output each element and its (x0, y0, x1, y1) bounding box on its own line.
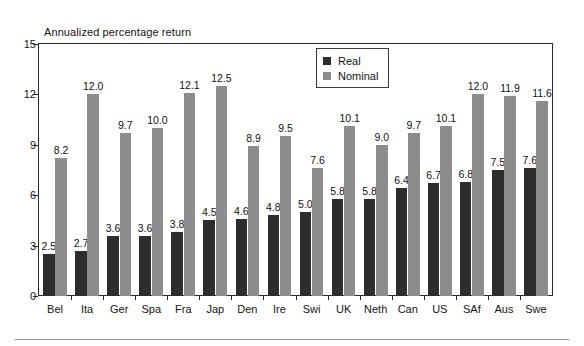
bar-nominal[interactable] (440, 126, 452, 296)
bar-group: 4.68.9 (231, 44, 263, 296)
x-axis-tick-mark (328, 296, 329, 300)
y-axis-tick-mark (33, 145, 38, 146)
bar-value-label: 12.0 (468, 81, 488, 92)
bar-real[interactable] (492, 170, 504, 296)
x-axis-tick-mark (231, 296, 232, 300)
bar-real[interactable] (203, 220, 215, 296)
bar-value-label: 9.0 (374, 132, 389, 143)
bar-value-label: 7.6 (523, 155, 538, 166)
x-axis-category-label: Can (398, 303, 418, 315)
bar-group: 2.712.0 (71, 44, 103, 296)
bar-nominal[interactable] (216, 86, 228, 296)
bar-real[interactable] (524, 168, 536, 296)
bar-value-label: 6.7 (426, 170, 441, 181)
bar-real[interactable] (428, 183, 440, 296)
y-axis-tick-label: 15 (0, 39, 36, 50)
x-axis-tick-mark (199, 296, 200, 300)
y-axis-tick-mark (33, 94, 38, 95)
bar-value-label: 5.0 (298, 199, 313, 210)
bar-nominal[interactable] (184, 93, 196, 296)
bar-nominal[interactable] (87, 94, 99, 296)
bar-value-label: 10.1 (340, 113, 360, 124)
x-axis-category-label: Swi (303, 303, 321, 315)
bar-group: 3.610.0 (135, 44, 167, 296)
bar-nominal[interactable] (280, 136, 292, 296)
x-axis-tick-mark (135, 296, 136, 300)
bar-real[interactable] (300, 212, 312, 296)
bar-value-label: 9.7 (407, 120, 422, 131)
bar-value-label: 4.5 (202, 207, 217, 218)
x-axis-tick-mark (103, 296, 104, 300)
bar-group: 3.812.1 (167, 44, 199, 296)
x-axis-tick-mark (520, 296, 521, 300)
bar-nominal[interactable] (152, 128, 164, 296)
x-axis-tick-mark (360, 296, 361, 300)
bar-value-label: 2.7 (74, 238, 89, 249)
chart-axis-title: Annualized percentage return (44, 26, 191, 39)
bar-nominal[interactable] (504, 96, 516, 296)
legend-swatch-nominal-icon (323, 72, 331, 80)
x-axis-category-label: SAf (463, 303, 481, 315)
bar-real[interactable] (364, 199, 376, 296)
bar-nominal[interactable] (536, 101, 548, 296)
x-axis-tick-mark (488, 296, 489, 300)
bar-value-label: 6.8 (458, 169, 473, 180)
bar-real[interactable] (171, 232, 183, 296)
bar-real[interactable] (332, 199, 344, 296)
bar-real[interactable] (43, 254, 55, 296)
bar-group: 6.710.1 (424, 44, 456, 296)
x-axis-category-label: Den (237, 303, 257, 315)
y-axis-tick-mark (33, 44, 38, 45)
x-axis-category-label: Jap (206, 303, 224, 315)
legend-label-real: Real (338, 55, 361, 67)
bar-nominal[interactable] (312, 168, 324, 296)
bar-nominal[interactable] (376, 145, 388, 296)
y-axis-tick-mark (33, 195, 38, 196)
x-axis-category-label: UK (336, 303, 351, 315)
bar-value-label: 12.0 (83, 81, 103, 92)
bar-real[interactable] (460, 182, 472, 296)
bar-chart: Annualized percentage return 03691215 2.… (0, 0, 584, 346)
x-axis-tick-mark (296, 296, 297, 300)
bar-real[interactable] (268, 215, 280, 296)
y-axis-tick-label: 6 (0, 190, 36, 201)
bar-value-label: 7.5 (490, 157, 505, 168)
bar-value-label: 12.5 (211, 73, 231, 84)
bar-value-label: 9.7 (118, 120, 133, 131)
bar-value-label: 10.1 (436, 113, 456, 124)
x-axis-category-label: Aus (494, 303, 513, 315)
y-axis-tick-label: 12 (0, 89, 36, 100)
bar-value-label: 7.6 (310, 155, 325, 166)
bar-nominal[interactable] (55, 158, 67, 296)
x-axis-tick-mark (456, 296, 457, 300)
bar-real[interactable] (139, 236, 151, 296)
bar-nominal[interactable] (248, 146, 260, 296)
bar-group: 6.49.7 (392, 44, 424, 296)
bar-group: 7.511.9 (488, 44, 520, 296)
x-axis-category-label: Fra (175, 303, 192, 315)
bar-value-label: 4.6 (234, 206, 249, 217)
bar-group: 4.89.5 (263, 44, 295, 296)
x-axis-category-label: US (432, 303, 447, 315)
bar-nominal[interactable] (472, 94, 484, 296)
bar-real[interactable] (236, 219, 248, 296)
bar-value-label: 11.6 (532, 88, 552, 99)
bar-value-label: 10.0 (147, 115, 167, 126)
y-axis-tick-mark (33, 246, 38, 247)
legend-item-nominal[interactable]: Nominal (323, 68, 378, 83)
chart-legend: Real Nominal (316, 48, 389, 88)
bar-nominal[interactable] (344, 126, 356, 296)
bar-value-label: 11.9 (500, 83, 520, 94)
legend-item-real[interactable]: Real (323, 53, 378, 68)
y-axis-tick-mark (33, 296, 38, 297)
bar-nominal[interactable] (120, 133, 132, 296)
y-axis-tick-label: 0 (0, 291, 36, 302)
x-axis-tick-mark (263, 296, 264, 300)
bar-group: 3.69.7 (103, 44, 135, 296)
bar-nominal[interactable] (408, 133, 420, 296)
bar-group: 4.512.5 (199, 44, 231, 296)
bar-real[interactable] (107, 236, 119, 296)
bar-real[interactable] (396, 188, 408, 296)
bar-real[interactable] (75, 251, 87, 296)
bar-value-label: 9.5 (278, 123, 293, 134)
